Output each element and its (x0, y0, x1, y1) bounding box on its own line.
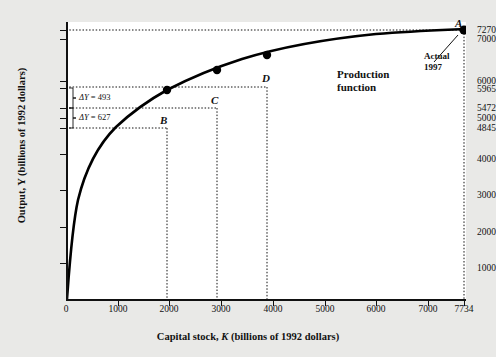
x-tick-6000: 6000 (356, 304, 396, 314)
x-tick-2000: 2000 (149, 304, 189, 314)
y-tick-2000: 2000 (436, 228, 496, 238)
production-function-figure: Output, Y (billions of 1992 dollars) (0, 0, 496, 357)
actual-1997-label: Actual 1997 (424, 51, 450, 72)
production-function-label-line1: Production (337, 68, 389, 81)
delta-y-upper-value: = 493 (89, 92, 111, 102)
y-tick-3000: 3000 (436, 191, 496, 201)
y-tick-mark-6000 (60, 81, 66, 82)
point-label-a: A (455, 18, 462, 29)
y-axis-line (66, 22, 68, 301)
data-point-c[interactable] (213, 66, 221, 74)
plot-area (66, 22, 466, 300)
actual-1997-line2: 1997 (424, 62, 450, 73)
production-function-label-line2: function (337, 81, 389, 94)
production-function-curve (67, 29, 464, 299)
y-tick-mark-2000 (60, 227, 66, 228)
x-tick-4000: 4000 (253, 304, 293, 314)
y-axis-title: Output, Y (billions of 1992 dollars) (16, 21, 27, 271)
delta-y-lower-symbol: ΔY (79, 112, 89, 122)
guide-lines (66, 30, 465, 299)
delta-y-braces (66, 86, 78, 132)
x-tick-0: 0 (46, 304, 86, 314)
delta-y-upper-label: ΔY = 493 (79, 93, 111, 102)
point-label-c: C (211, 95, 218, 106)
x-tick-7734: 7734 (444, 304, 484, 314)
delta-y-lower-label: ΔY = 627 (79, 113, 111, 122)
production-function-label: Production function (337, 68, 389, 94)
y-tick-mark-1000 (60, 263, 66, 264)
x-tick-7000: 7000 (408, 304, 448, 314)
y-tick-mark-7000 (60, 39, 66, 40)
y-tick-mark-7270 (60, 30, 66, 31)
data-point-b[interactable] (163, 86, 171, 94)
x-tick-3000: 3000 (201, 304, 241, 314)
point-label-d: D (262, 73, 270, 84)
y-tick-4000: 4000 (436, 155, 496, 165)
actual-1997-line1: Actual (424, 51, 450, 62)
x-axis-line (66, 299, 466, 301)
delta-y-lower-value: = 627 (89, 112, 111, 122)
y-tick-7000: 7000 (436, 35, 496, 45)
y-tick-4845: 4845 (436, 124, 496, 134)
x-axis-title-pre: Capital stock, (157, 331, 221, 342)
data-point-d[interactable] (263, 51, 271, 59)
x-axis-title-post: (billions of 1992 dollars) (228, 331, 339, 342)
y-tick-5965: 5965 (436, 85, 496, 95)
plot-svg (66, 22, 466, 300)
y-tick-1000: 1000 (436, 264, 496, 274)
point-label-b: B (160, 115, 167, 126)
x-axis-title: Capital stock, K (billions of 1992 dolla… (0, 331, 496, 342)
y-tick-mark-4000 (60, 154, 66, 155)
delta-y-upper-symbol: ΔY (79, 92, 89, 102)
x-tick-1000: 1000 (98, 304, 138, 314)
y-tick-mark-3000 (60, 190, 66, 191)
x-tick-5000: 5000 (305, 304, 345, 314)
